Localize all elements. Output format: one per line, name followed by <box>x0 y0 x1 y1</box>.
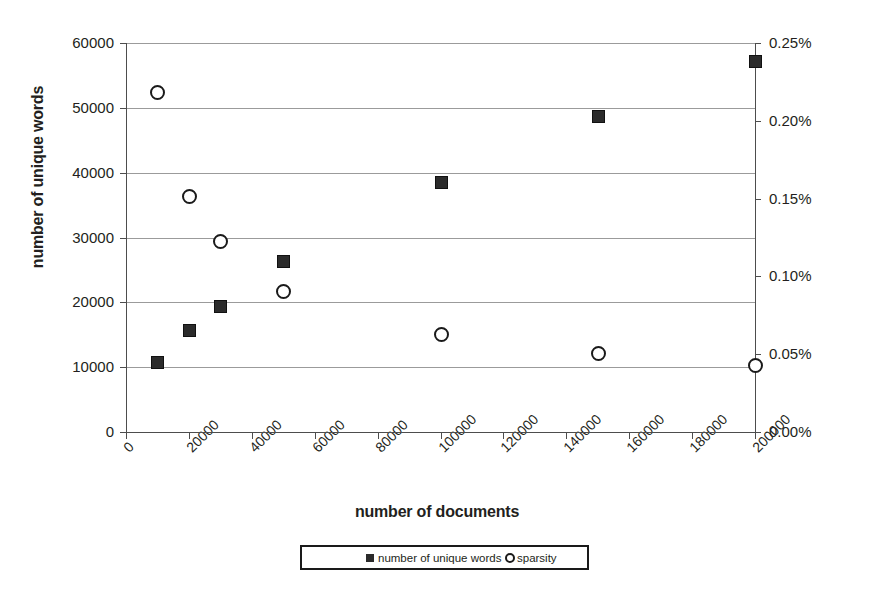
data-point-sparsity <box>150 85 165 100</box>
data-point-unique-words <box>214 300 227 313</box>
y-tick-right <box>755 276 761 277</box>
y-tick-right <box>755 354 761 355</box>
y-tick-label-right: 0.15% <box>769 190 859 207</box>
y-tick-label-left: 10000 <box>4 358 114 375</box>
x-tick <box>441 432 442 439</box>
x-tick-label: 40000 <box>246 444 257 455</box>
data-point-unique-words <box>277 255 290 268</box>
y-tick-left <box>120 43 126 44</box>
data-point-sparsity <box>182 189 197 204</box>
y-tick-label-left: 0 <box>4 423 114 440</box>
data-point-sparsity <box>748 358 763 373</box>
chart-legend: number of unique wordssparsity <box>300 545 589 570</box>
y-tick-right <box>755 199 761 200</box>
legend-square-icon <box>366 554 374 562</box>
chart-figure: number of unique words non-zero values i… <box>0 0 874 597</box>
x-tick <box>315 432 316 439</box>
legend-label: number of unique words <box>378 552 501 564</box>
y-tick-right <box>755 43 761 44</box>
data-point-unique-words <box>151 356 164 369</box>
gridline <box>126 173 755 174</box>
x-tick <box>566 432 567 439</box>
x-tick <box>629 432 630 439</box>
x-tick-label: 160000 <box>623 444 634 455</box>
data-point-sparsity <box>434 327 449 342</box>
data-point-sparsity <box>276 284 291 299</box>
x-tick-label: 0 <box>120 444 131 455</box>
data-point-sparsity <box>213 234 228 249</box>
y-tick-left <box>120 367 126 368</box>
y-tick-label-left: 40000 <box>4 164 114 181</box>
y-tick-label-left: 20000 <box>4 293 114 310</box>
x-tick-label: 180000 <box>686 444 697 455</box>
x-tick <box>503 432 504 439</box>
y-tick-label-right: 0.25% <box>769 34 859 51</box>
legend-item[interactable]: number of unique words <box>366 552 501 564</box>
x-tick-label: 120000 <box>497 444 508 455</box>
x-tick-label: 80000 <box>372 444 383 455</box>
data-point-unique-words <box>435 176 448 189</box>
y-tick-left <box>120 173 126 174</box>
y-tick-right <box>755 121 761 122</box>
x-tick <box>189 432 190 439</box>
x-tick-label: 140000 <box>560 444 571 455</box>
y-tick-label-right: 0.10% <box>769 267 859 284</box>
y-tick-left <box>120 302 126 303</box>
legend-circle-icon <box>505 553 515 563</box>
y-tick-label-left: 50000 <box>4 99 114 116</box>
gridline <box>126 367 755 368</box>
x-tick <box>692 432 693 439</box>
y-tick-left <box>120 238 126 239</box>
data-point-unique-words <box>749 55 762 68</box>
y-tick-label-right: 0.20% <box>769 112 859 129</box>
y-axis-line-left <box>126 43 127 433</box>
x-tick-label: 60000 <box>309 444 320 455</box>
y-tick-left <box>120 108 126 109</box>
x-tick <box>252 432 253 439</box>
legend-item[interactable]: sparsity <box>505 552 557 564</box>
x-tick-label: 200000 <box>749 444 760 455</box>
data-point-unique-words <box>183 324 196 337</box>
data-point-unique-words <box>592 110 605 123</box>
data-point-sparsity <box>591 346 606 361</box>
y-tick-label-right: 0.05% <box>769 345 859 362</box>
y-tick-label-left: 60000 <box>4 34 114 51</box>
x-tick <box>755 432 756 439</box>
x-tick-label: 100000 <box>435 444 446 455</box>
gridline <box>126 43 755 44</box>
legend-label: sparsity <box>517 552 557 564</box>
y-axis-line-right <box>755 43 756 433</box>
y-tick-label-left: 30000 <box>4 229 114 246</box>
x-tick <box>126 432 127 439</box>
x-axis-title: number of documents <box>0 503 874 521</box>
gridline <box>126 108 755 109</box>
x-tick <box>378 432 379 439</box>
x-tick-label: 20000 <box>183 444 194 455</box>
plot-area <box>126 43 755 432</box>
